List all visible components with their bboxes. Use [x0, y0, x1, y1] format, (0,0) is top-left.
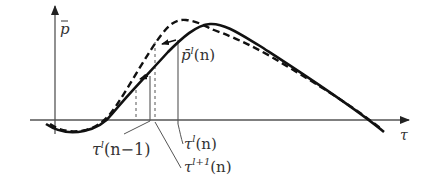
leader-tau-l-n-minus-1 [124, 121, 150, 134]
label-p-bar-arg: (n) [194, 46, 215, 64]
leader-tau-l-n [178, 124, 183, 144]
curve-dashed [50, 20, 380, 131]
label-p-bar-l-n: p̄l(n) [181, 45, 215, 64]
x-axis-label: τ [400, 127, 408, 143]
label-tau-l-plus-1-n: τl+1(n) [184, 156, 232, 176]
label-tau-l-n: τl(n) [184, 133, 217, 153]
y-axis-label: p [60, 20, 70, 38]
arrow-marker-upper [162, 40, 176, 44]
leader-tau-l-plus-1-n [155, 122, 181, 168]
guide-lines [136, 40, 178, 124]
diagram-canvas: p τ p̄l(n) [0, 0, 432, 189]
y-axis-label-text: p [60, 20, 70, 38]
curve-solid [46, 24, 384, 132]
label-tau-l-n-minus-1: τl(n−1) [92, 139, 150, 159]
svg-text:p̄l(n): p̄l(n) [181, 45, 215, 64]
label-p-bar-base: p̄ [181, 46, 191, 64]
